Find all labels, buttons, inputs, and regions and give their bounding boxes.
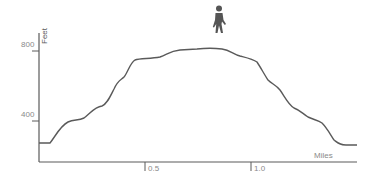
x-axis-label: Miles <box>314 151 333 160</box>
y-tick-label-800: 800 <box>21 40 34 49</box>
elevation-line <box>39 48 357 145</box>
hiker-icon <box>213 6 226 34</box>
y-axis-label: Feet <box>40 28 49 44</box>
elevation-chart <box>0 0 376 189</box>
x-tick-label-0.5: 0.5 <box>148 164 159 173</box>
x-tick-label-1.0: 1.0 <box>254 164 265 173</box>
y-tick-label-400: 400 <box>21 110 34 119</box>
